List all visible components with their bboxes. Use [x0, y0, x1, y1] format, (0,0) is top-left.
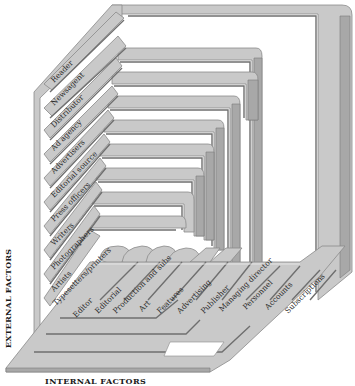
internal-factors-axis-label: INTERNAL FACTORS [45, 376, 146, 386]
external-factors-axis-label: EXTERNAL FACTORS [3, 249, 13, 348]
external-loops [88, 48, 262, 268]
